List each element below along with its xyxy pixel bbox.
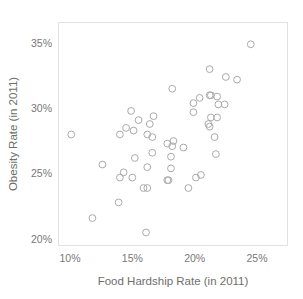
x-tick-label: 15%	[122, 252, 143, 264]
x-tick-label: 10%	[59, 252, 80, 264]
x-axis-title: Food Hardship Rate (in 2011)	[98, 275, 249, 287]
y-tick-label: 25%	[31, 167, 52, 179]
x-tick-label: 20%	[184, 252, 205, 264]
y-axis-title: Obesity Rate (in 2011)	[7, 77, 19, 191]
chart-canvas: 20%25%30%35% 10%15%20%25% Food Hardship …	[0, 0, 303, 299]
x-tick-label: 25%	[246, 252, 267, 264]
y-tick-label: 20%	[31, 233, 52, 245]
scatter-chart: 20%25%30%35% 10%15%20%25% Food Hardship …	[0, 0, 303, 299]
y-tick-label: 30%	[31, 102, 52, 114]
y-tick-label: 35%	[31, 37, 52, 49]
